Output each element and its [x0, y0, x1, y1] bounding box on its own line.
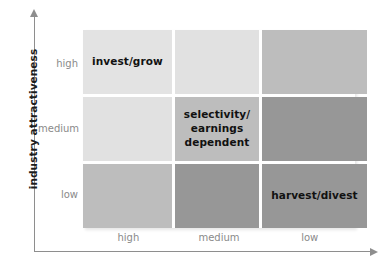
x-axis-tick-labels: high medium low — [83, 232, 355, 248]
matrix-cell-low-low[interactable]: harvest/divest — [262, 164, 367, 228]
arrow-up-icon — [30, 9, 38, 17]
matrix-cell-low-high[interactable] — [83, 164, 172, 228]
y-tick-label-high: high — [38, 58, 78, 69]
x-tick-label-low: low — [264, 232, 355, 248]
y-axis-tick-labels: high medium low — [38, 30, 78, 228]
x-tick-label-high: high — [83, 232, 174, 248]
matrix-cell-label: harvest/divest — [271, 189, 358, 203]
y-tick-label-low: low — [38, 189, 78, 200]
matrix-cell-medium-high[interactable] — [83, 97, 172, 161]
matrix-cell-label: invest/grow — [92, 55, 163, 69]
x-axis-line — [34, 251, 372, 252]
matrix-cell-high-low[interactable] — [262, 30, 367, 94]
matrix-cell-medium-low[interactable] — [262, 97, 367, 161]
arrow-right-icon — [370, 248, 378, 256]
industry-attractiveness-matrix: industry attractiveness high medium low … — [0, 0, 379, 263]
x-tick-label-medium: medium — [174, 232, 265, 248]
matrix-cell-low-medium[interactable] — [175, 164, 259, 228]
matrix-cell-high-high[interactable]: invest/grow — [83, 30, 172, 94]
matrix-grid: invest/grow selectivity/earningsdependen… — [83, 30, 355, 228]
matrix-cell-medium-medium[interactable]: selectivity/earningsdependent — [175, 97, 259, 161]
matrix-cell-high-medium[interactable] — [175, 30, 259, 94]
matrix-cell-label: selectivity/earningsdependent — [184, 108, 250, 150]
y-tick-label-medium: medium — [38, 123, 78, 134]
